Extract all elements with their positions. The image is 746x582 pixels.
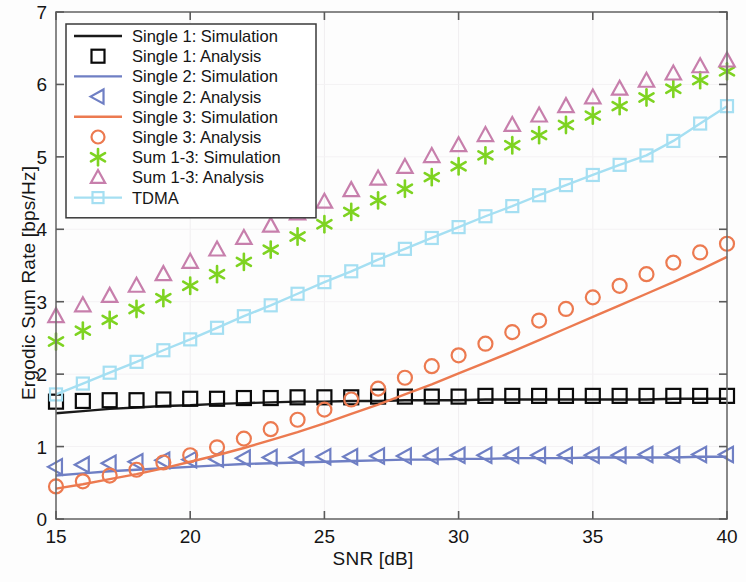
svg-text:20: 20 bbox=[180, 526, 201, 547]
svg-text:0: 0 bbox=[36, 509, 47, 530]
legend-label: Single 2: Analysis bbox=[132, 88, 261, 106]
svg-text:35: 35 bbox=[582, 526, 603, 547]
legend-box: Single 1: SimulationSingle 1: AnalysisSi… bbox=[66, 24, 316, 218]
svg-text:15: 15 bbox=[45, 526, 66, 547]
series-5 bbox=[49, 237, 734, 494]
plot-canvas: 15202530354001234567 Single 1: Simulatio… bbox=[0, 0, 746, 582]
svg-text:25: 25 bbox=[314, 526, 335, 547]
legend-label: TDMA bbox=[132, 189, 179, 207]
legend-label: Single 2: Simulation bbox=[132, 67, 278, 85]
legend-label: Single 3: Simulation bbox=[132, 108, 278, 126]
legend-label: Sum 1-3: Analysis bbox=[132, 168, 264, 186]
legend-label: Single 3: Analysis bbox=[132, 128, 261, 146]
svg-text:40: 40 bbox=[716, 526, 737, 547]
svg-text:6: 6 bbox=[36, 74, 47, 95]
y-axis-label: Ergodic Sum Rate [bps/Hz] bbox=[18, 166, 40, 400]
legend-label: Sum 1-3: Simulation bbox=[132, 148, 281, 166]
svg-text:1: 1 bbox=[36, 437, 47, 458]
chart-figure: 15202530354001234567 Single 1: Simulatio… bbox=[0, 0, 746, 582]
legend-label: Single 1: Analysis bbox=[132, 47, 261, 65]
svg-text:5: 5 bbox=[36, 147, 47, 168]
x-axis-label: SNR [dB] bbox=[0, 548, 746, 570]
svg-text:30: 30 bbox=[448, 526, 469, 547]
svg-text:7: 7 bbox=[36, 2, 47, 23]
legend-label: Single 1: Simulation bbox=[132, 27, 278, 45]
